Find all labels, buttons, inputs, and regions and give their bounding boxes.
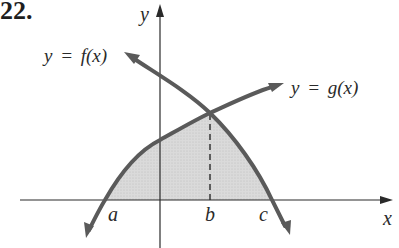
figure: 22. y x y = f(x) y = g(x) a b c (0, 0, 399, 248)
y-axis-label: y (140, 4, 149, 24)
g-arrow-upper-icon (268, 83, 284, 92)
point-a-label: a (108, 204, 118, 224)
problem-number: 22. (0, 0, 33, 24)
x-axis-arrow-icon (380, 196, 393, 204)
x-axis-label: x (383, 208, 392, 228)
point-b-label: b (205, 204, 215, 224)
point-c-label: c (259, 204, 268, 224)
f-curve-label: y = f(x) (44, 46, 107, 65)
graph (0, 0, 399, 248)
g-curve-label: y = g(x) (291, 78, 358, 97)
y-axis-arrow-icon (156, 4, 164, 17)
